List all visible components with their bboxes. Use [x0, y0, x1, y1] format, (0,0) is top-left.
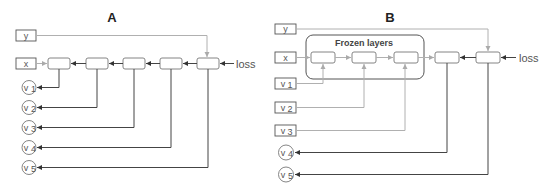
panel-a-output-v1: v 1 — [22, 81, 36, 95]
panel-a-output-v3: v 3 — [22, 121, 36, 135]
panel-b-frozen-layer-3 — [394, 52, 418, 63]
panel-b: B y Frozen layers x loss v 1 v 2 — [275, 10, 539, 182]
panel-b-frozen-layer-2 — [352, 52, 376, 63]
svg-text:1: 1 — [288, 80, 293, 90]
panel-a-y-label: y — [24, 31, 29, 41]
panel-b-frozen-layer-1 — [311, 52, 335, 63]
svg-text:4: 4 — [288, 149, 293, 159]
svg-text:5: 5 — [288, 171, 293, 181]
panel-b-v3-input-box — [275, 125, 296, 136]
svg-text:v: v — [24, 83, 29, 93]
panel-a-y-connector — [36, 36, 207, 58]
svg-text:v: v — [24, 163, 29, 173]
panel-b-loss-label: loss — [519, 52, 539, 64]
panel-a-output-v2: v 2 — [22, 101, 36, 115]
svg-text:2: 2 — [288, 104, 293, 114]
panel-a-layer-2 — [86, 58, 108, 69]
panel-b-v2-input-box — [275, 102, 296, 113]
panel-b-title: B — [385, 10, 394, 25]
svg-text:4: 4 — [31, 144, 36, 154]
panel-a-v5-connector — [37, 69, 208, 168]
panel-a-layer-3 — [123, 58, 145, 69]
svg-text:v: v — [281, 148, 286, 158]
panel-a-layer-4 — [160, 58, 182, 69]
panel-a-title: A — [107, 10, 117, 25]
panel-a: A y x loss v 1 — [16, 10, 256, 175]
panel-b-output-v4: v 4 — [279, 145, 294, 160]
svg-text:3: 3 — [31, 124, 36, 134]
panel-b-output-v5: v 5 — [279, 167, 294, 182]
panel-a-v2-connector — [37, 69, 97, 108]
panel-b-y-label: y — [283, 24, 288, 34]
panel-a-v3-connector — [37, 69, 134, 128]
panel-a-x-label: x — [24, 59, 29, 69]
svg-text:5: 5 — [31, 164, 36, 174]
svg-text:3: 3 — [288, 127, 293, 137]
svg-text:v: v — [281, 170, 286, 180]
panel-a-layer-5 — [197, 58, 219, 69]
svg-text:v: v — [281, 126, 286, 136]
panel-a-output-v5: v 5 — [22, 161, 36, 175]
panel-a-v4-connector — [37, 69, 171, 148]
panel-b-v1-input-box — [275, 78, 296, 89]
svg-text:v: v — [281, 79, 286, 89]
frozen-layers-label: Frozen layers — [335, 38, 393, 48]
panel-a-v1-connector — [37, 69, 59, 88]
panel-b-v5-connector — [295, 63, 488, 175]
panel-b-layer-5 — [476, 52, 500, 63]
panel-a-output-v4: v 4 — [22, 141, 36, 155]
diagram-canvas: A y x loss v 1 — [0, 0, 550, 193]
svg-text:v: v — [24, 123, 29, 133]
panel-b-x-label: x — [283, 53, 288, 63]
panel-b-layer-4 — [435, 52, 459, 63]
panel-a-layer-1 — [48, 58, 70, 69]
svg-text:1: 1 — [31, 84, 36, 94]
panel-a-loss-label: loss — [236, 58, 256, 70]
svg-text:v: v — [281, 103, 286, 113]
svg-text:v: v — [24, 103, 29, 113]
svg-text:2: 2 — [31, 104, 36, 114]
svg-text:v: v — [24, 143, 29, 153]
